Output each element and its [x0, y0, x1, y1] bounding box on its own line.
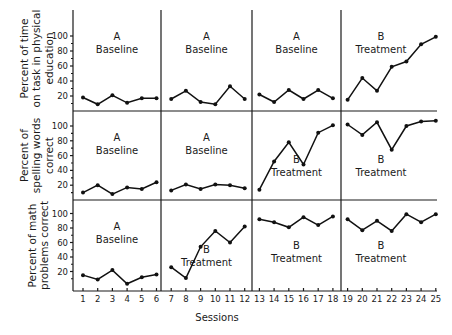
data-point [331, 214, 335, 218]
svg-text:Percent of math: Percent of math [26, 204, 38, 288]
data-line [83, 182, 157, 194]
data-point [390, 229, 394, 233]
x-tick-label: 4 [124, 294, 129, 304]
phase-letter: A [114, 132, 121, 143]
data-point [110, 93, 114, 97]
data-point [316, 131, 320, 135]
data-line [259, 216, 333, 227]
x-tick-label: 13 [254, 294, 265, 304]
data-point [272, 160, 276, 164]
data-point [360, 76, 364, 80]
svg-text:spelling words: spelling words [30, 118, 42, 193]
data-point [125, 282, 129, 286]
data-point [375, 120, 379, 124]
data-point [243, 97, 247, 101]
y-tick-label: 80 [57, 46, 68, 56]
data-point [184, 276, 188, 280]
data-point [390, 65, 394, 69]
data-point [199, 100, 203, 104]
data-point [81, 191, 85, 195]
data-line [83, 270, 157, 284]
x-tick-label: 15 [283, 294, 294, 304]
x-tick-label: 25 [430, 294, 441, 304]
phase-name: Baseline [96, 145, 138, 156]
data-point [125, 185, 129, 189]
data-point [81, 96, 85, 100]
data-point [140, 96, 144, 100]
y-tick-label: 20 [57, 180, 68, 190]
phase-letter: A [114, 221, 121, 232]
phase-name: Baseline [96, 234, 138, 245]
data-point [390, 148, 394, 152]
phase-treatment-3: BTreatment [257, 123, 335, 191]
data-point [302, 215, 306, 219]
data-point [287, 225, 291, 229]
y-axis-title: Percent ofspelling wordscorrect [18, 118, 55, 193]
data-point [199, 245, 203, 249]
x-tick-label: 23 [401, 294, 412, 304]
data-point [184, 89, 188, 93]
data-point [360, 228, 364, 232]
data-point [96, 277, 100, 281]
x-tick-label: 18 [327, 294, 338, 304]
data-point [346, 123, 350, 127]
data-point [302, 97, 306, 101]
y-tick-label: 40 [57, 252, 68, 262]
data-point [346, 217, 350, 221]
data-point [302, 162, 306, 166]
phase-name: Treatment [355, 44, 407, 55]
data-point [155, 272, 159, 276]
panel-3: 10080604020Percent of mathproblems corre… [26, 200, 438, 291]
data-point [404, 124, 408, 128]
data-point [169, 97, 173, 101]
phase-letter: A [293, 31, 300, 42]
data-point [287, 140, 291, 144]
x-tick-label: 9 [198, 294, 203, 304]
data-point [419, 220, 423, 224]
data-point [243, 225, 247, 229]
x-tick-label: 14 [269, 294, 280, 304]
y-tick-label: 20 [57, 267, 68, 277]
y-tick-label: 60 [57, 61, 68, 71]
data-point [213, 229, 217, 233]
data-point [96, 102, 100, 106]
y-tick-label: 40 [57, 76, 68, 86]
data-point [81, 273, 85, 277]
x-tick-label: 1 [80, 294, 85, 304]
data-point [140, 275, 144, 279]
phase-baseline-2: ABaseline [169, 132, 247, 192]
x-tick-label: 17 [313, 294, 324, 304]
data-point [257, 188, 261, 192]
x-tick-label: 10 [210, 294, 221, 304]
svg-text:on task in physical: on task in physical [30, 10, 42, 108]
data-point [199, 187, 203, 191]
phase-treatment-4: BTreatment [346, 31, 438, 102]
x-tick-label: 21 [372, 294, 383, 304]
y-tick-label: 60 [57, 238, 68, 248]
x-tick-label: 16 [298, 294, 309, 304]
data-line [83, 95, 157, 104]
y-tick-label: 60 [57, 151, 68, 161]
chart-panels: 10080604020Percent of timeon task in phy… [18, 10, 438, 291]
phase-name: Treatment [355, 253, 407, 264]
phase-letter: B [378, 154, 385, 165]
data-line [171, 185, 245, 191]
data-line [259, 90, 333, 102]
y-tick-label: 20 [57, 91, 68, 101]
x-tick-label: 3 [110, 294, 115, 304]
data-line [171, 86, 245, 104]
phase-letter: B [203, 244, 210, 255]
phase-name: Treatment [270, 253, 322, 264]
phase-name: Baseline [185, 44, 227, 55]
data-point [419, 120, 423, 124]
x-tick-label: 5 [139, 294, 144, 304]
phase-name: Baseline [96, 44, 138, 55]
x-tick-label: 22 [386, 294, 397, 304]
phase-name: Baseline [275, 44, 317, 55]
phase-letter: B [378, 31, 385, 42]
phase-treatment-3: BTreatment [257, 214, 335, 264]
x-tick-label: 12 [239, 294, 250, 304]
data-point [434, 35, 438, 39]
data-point [110, 192, 114, 196]
phase-treatment-4: BTreatment [346, 212, 438, 264]
